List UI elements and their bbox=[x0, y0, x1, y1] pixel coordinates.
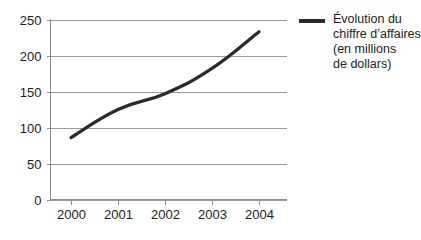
legend-label-line: (en millions bbox=[333, 42, 421, 57]
y-tick-label: 200 bbox=[20, 49, 42, 64]
legend-label-line: chiffre d’affaires bbox=[333, 27, 421, 42]
y-tick-label: 50 bbox=[27, 157, 41, 172]
x-tick-label: 2001 bbox=[104, 207, 133, 222]
x-tick-label: 2004 bbox=[245, 207, 274, 222]
y-tick-label: 250 bbox=[20, 13, 42, 28]
chart-figure: 050100150200250 20002001200220032004 Évo… bbox=[0, 0, 421, 240]
x-tick-label: 2000 bbox=[57, 207, 86, 222]
x-tick-label: 2003 bbox=[198, 207, 227, 222]
legend-swatch-icon bbox=[299, 19, 325, 23]
x-tick-label: 2002 bbox=[151, 207, 180, 222]
legend-label-line: Évolution du bbox=[333, 12, 421, 27]
y-tick-label: 0 bbox=[34, 193, 41, 208]
y-tick-label: 150 bbox=[20, 85, 42, 100]
legend-label-line: de dollars) bbox=[333, 57, 421, 72]
y-tick-label: 100 bbox=[20, 121, 42, 136]
chart-legend: Évolution du chiffre d’affaires (en mill… bbox=[299, 12, 421, 72]
legend-label: Évolution du chiffre d’affaires (en mill… bbox=[333, 12, 421, 72]
